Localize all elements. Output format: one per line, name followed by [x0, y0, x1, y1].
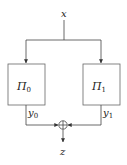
- y0-label: y0: [27, 107, 38, 120]
- input-split-lines: [26, 20, 101, 63]
- y1-label: y1: [102, 107, 113, 120]
- block-pi-1: Π1: [83, 64, 120, 105]
- xor-icon: [59, 121, 67, 129]
- output-label: z: [59, 146, 66, 157]
- block-diagram: x Π0 Π1 y0 y1 z: [0, 0, 127, 165]
- block-pi-0: Π0: [8, 64, 45, 105]
- input-label: x: [61, 8, 67, 19]
